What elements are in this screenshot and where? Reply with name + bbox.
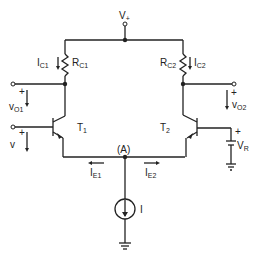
svg-text:VR: VR [237, 140, 249, 152]
terminal-input [11, 125, 15, 129]
transistor-t1: T1 [53, 116, 87, 157]
current-arrow-ie2: IE2 [144, 161, 160, 179]
battery-vr: + VR [226, 126, 249, 164]
voltage-label-v: + v [10, 127, 29, 152]
svg-text:+: + [19, 127, 25, 138]
resistor-rc2: RC2 [160, 40, 186, 84]
current-arrow-ie1: IE1 [88, 161, 104, 179]
supply-terminal: V+ [119, 10, 130, 42]
svg-text:(A): (A) [117, 144, 130, 155]
circuit-diagram: V+ RC1 IC1 + vO1 T1 + v [0, 0, 260, 260]
schematic: V+ RC1 IC1 + vO1 T1 + v [0, 0, 260, 260]
svg-text:V+: V+ [119, 10, 130, 22]
current-source: I [115, 157, 143, 243]
resistor-rc1: RC1 [62, 40, 88, 84]
svg-text:IC1: IC1 [37, 57, 49, 69]
svg-text:vO1: vO1 [9, 101, 23, 113]
svg-text:IC2: IC2 [194, 57, 206, 69]
transistor-t2: T2 [160, 115, 197, 157]
svg-text:+: + [235, 126, 241, 137]
svg-text:T1: T1 [77, 122, 87, 134]
svg-text:+: + [19, 86, 25, 97]
ground-symbol [119, 243, 131, 249]
voltage-label-vo1: + vO1 [9, 86, 29, 113]
svg-text:RC1: RC1 [72, 57, 88, 69]
ground-symbol-vr [226, 164, 236, 170]
svg-text:v: v [10, 139, 15, 150]
svg-text:I: I [140, 204, 143, 215]
terminal-vo2 [232, 82, 236, 86]
svg-text:vO2: vO2 [232, 99, 246, 111]
svg-text:RC2: RC2 [160, 57, 176, 69]
current-arrow-ic2: IC2 [188, 57, 206, 70]
svg-text:IE1: IE1 [90, 167, 101, 179]
current-arrow-ic1: IC1 [37, 57, 60, 70]
voltage-label-vo2: + vO2 [225, 87, 246, 111]
terminal-vo1 [11, 82, 15, 86]
svg-text:T2: T2 [160, 122, 170, 134]
svg-text:+: + [231, 87, 237, 98]
svg-text:IE2: IE2 [145, 167, 156, 179]
